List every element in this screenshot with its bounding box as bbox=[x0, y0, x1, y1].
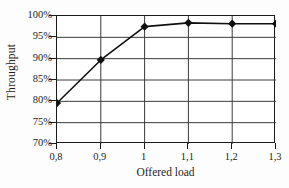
x-axis-tick-mark bbox=[187, 143, 188, 149]
x-axis-tick-label: 1,3 bbox=[255, 151, 289, 163]
y-axis-tick-mark bbox=[49, 36, 56, 37]
y-axis-tick-mark bbox=[49, 122, 56, 123]
y-axis-tick-mark bbox=[49, 15, 56, 16]
x-axis-tick-label: 1,1 bbox=[167, 151, 207, 163]
x-axis-tick-mark bbox=[100, 143, 101, 149]
y-axis-tick-mark bbox=[49, 100, 56, 101]
x-axis-tick-label: 1,2 bbox=[211, 151, 251, 163]
x-axis-tick-label: 0,9 bbox=[80, 151, 120, 163]
x-axis-tick-label: 1 bbox=[124, 151, 164, 163]
x-axis-tick-mark bbox=[231, 143, 232, 149]
y-axis-tick-label: 85% bbox=[18, 74, 52, 84]
y-axis-title-label: Throughput bbox=[5, 43, 17, 99]
chart-figure: Throughput 70%75%80%85%90%95%100% 0,80,9… bbox=[0, 0, 289, 188]
x-axis-tick-marks bbox=[56, 143, 275, 151]
y-axis-tick-mark bbox=[49, 143, 56, 144]
y-axis-tick-label: 70% bbox=[18, 138, 52, 148]
y-axis-tick-mark bbox=[49, 58, 56, 59]
x-axis-tick-mark bbox=[56, 143, 57, 149]
y-axis-tick-label: 75% bbox=[18, 117, 52, 127]
throughput-markers bbox=[57, 19, 276, 107]
plot-canvas bbox=[57, 16, 276, 144]
y-axis-tick-label: 95% bbox=[18, 31, 52, 41]
y-axis-tick-labels: 70%75%80%85%90%95%100% bbox=[18, 10, 52, 143]
x-axis-tick-label: 0,8 bbox=[36, 151, 76, 163]
y-axis-tick-label: 80% bbox=[18, 95, 52, 105]
y-axis-tick-label: 90% bbox=[18, 53, 52, 63]
x-axis-tick-mark bbox=[144, 143, 145, 149]
x-axis-title: Offered load bbox=[56, 166, 275, 178]
horizontal-gridlines bbox=[57, 37, 276, 122]
throughput-line bbox=[57, 23, 276, 103]
x-axis-tick-mark bbox=[275, 143, 276, 149]
y-axis-tick-label: 100% bbox=[18, 10, 52, 20]
y-axis-tick-mark bbox=[49, 79, 56, 80]
plot-area bbox=[56, 15, 275, 143]
x-axis-tick-labels: 0,80,911,11,21,3 bbox=[56, 151, 275, 165]
data-point-marker bbox=[272, 20, 276, 28]
data-point-marker bbox=[184, 19, 192, 27]
data-point-marker bbox=[228, 20, 236, 28]
